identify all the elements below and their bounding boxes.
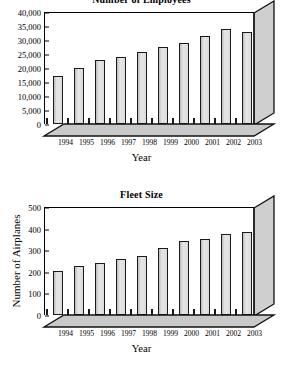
x-axis-title-employees: Year bbox=[0, 152, 283, 163]
plot-area-employees: 05,00010,00015,00020,00025,00030,00035,0… bbox=[44, 12, 254, 124]
chart-title-fleet: Fleet Size bbox=[0, 189, 283, 200]
y-axis-tick: 300 bbox=[28, 246, 45, 256]
chart-title-employees: Number of Employees bbox=[0, 0, 283, 5]
x-axis-label: 2003 bbox=[247, 138, 262, 147]
y-axis-tick: 15,000 bbox=[18, 78, 45, 88]
y-axis-title-fleet: Number of Airplanes bbox=[10, 201, 22, 321]
bar bbox=[74, 68, 85, 124]
axis-tickmark bbox=[172, 118, 173, 124]
y-axis-tick: 25,000 bbox=[18, 50, 45, 60]
x-axis-label: 2003 bbox=[247, 329, 262, 338]
y-axis-tick: 500 bbox=[28, 203, 45, 213]
bar bbox=[53, 271, 64, 315]
axis-tickmark bbox=[151, 118, 152, 124]
bar bbox=[179, 241, 190, 315]
axis-tickmark bbox=[67, 118, 68, 124]
bar bbox=[116, 259, 127, 315]
axis-tickmark bbox=[235, 118, 236, 124]
bar bbox=[74, 266, 85, 315]
x-axis-label: 1995 bbox=[79, 138, 94, 147]
axis-tickmark bbox=[109, 309, 110, 315]
bar bbox=[158, 248, 169, 315]
y-axis-tick: 10,000 bbox=[18, 92, 45, 102]
x-axis-label: 1999 bbox=[163, 138, 178, 147]
y-axis-tick: 0 bbox=[37, 311, 45, 321]
x-axis-label: 2001 bbox=[205, 329, 220, 338]
bar bbox=[221, 234, 232, 315]
x-axis-label: 2002 bbox=[226, 138, 241, 147]
chart-number-of-employees: Number of Employees 05,00010,00015,00020… bbox=[0, 0, 283, 185]
axis-tickmark bbox=[46, 309, 47, 315]
x-axis-label: 1994 bbox=[58, 329, 73, 338]
x-axis-title-fleet: Year bbox=[0, 343, 283, 354]
y-axis-tick: 35,000 bbox=[18, 22, 45, 32]
axis-tickmark bbox=[67, 309, 68, 315]
axis-tickmark bbox=[172, 309, 173, 315]
x-axis-label: 2000 bbox=[184, 329, 199, 338]
axis-tickmark bbox=[130, 118, 131, 124]
axis-tickmark bbox=[235, 309, 236, 315]
bar bbox=[242, 32, 253, 124]
bar bbox=[242, 232, 253, 315]
axis-tickmark bbox=[109, 118, 110, 124]
y-axis-tick: 400 bbox=[28, 225, 45, 235]
y-axis-tick: 100 bbox=[28, 289, 45, 299]
x-axis-label: 1995 bbox=[79, 329, 94, 338]
y-axis-tick: 40,000 bbox=[18, 8, 45, 18]
bar bbox=[221, 29, 232, 124]
x-axis-label: 1997 bbox=[121, 138, 136, 147]
x-axis-label: 1994 bbox=[58, 138, 73, 147]
y-axis-tick: 30,000 bbox=[18, 36, 45, 46]
bar bbox=[158, 47, 169, 124]
y-axis-tick: 200 bbox=[28, 268, 45, 278]
y-axis-tick: 20,000 bbox=[18, 64, 45, 74]
axis-tickmark bbox=[88, 309, 89, 315]
y-axis-tick: 5,000 bbox=[22, 106, 45, 116]
plot-area-fleet: 0100200300400500 bbox=[44, 207, 254, 315]
axis-tickmark bbox=[151, 309, 152, 315]
axis-tickmark bbox=[46, 118, 47, 124]
x-axis-label: 1996 bbox=[100, 329, 115, 338]
bar bbox=[179, 43, 190, 124]
axis-tickmark bbox=[193, 309, 194, 315]
bar-series-fleet bbox=[45, 208, 254, 315]
axis-tickmark bbox=[214, 309, 215, 315]
bar bbox=[116, 57, 127, 124]
axis-tickmark bbox=[88, 118, 89, 124]
x-axis-label: 1999 bbox=[163, 329, 178, 338]
axis-tickmark bbox=[193, 118, 194, 124]
bar bbox=[53, 76, 64, 124]
x-axis-label: 2001 bbox=[205, 138, 220, 147]
x-axis-label: 1998 bbox=[142, 329, 157, 338]
bar bbox=[95, 60, 106, 124]
bar bbox=[200, 239, 211, 315]
bar bbox=[137, 256, 148, 315]
y-axis-tick: 0 bbox=[37, 120, 45, 130]
axis-tickmark bbox=[214, 118, 215, 124]
x-axis-label: 1996 bbox=[100, 138, 115, 147]
bar bbox=[200, 36, 211, 124]
bar-series-employees bbox=[45, 13, 254, 124]
bar bbox=[137, 52, 148, 124]
x-axis-label: 2002 bbox=[226, 329, 241, 338]
x-axis-label: 1997 bbox=[121, 329, 136, 338]
x-axis-label: 1998 bbox=[142, 138, 157, 147]
x-axis-label: 2000 bbox=[184, 138, 199, 147]
bar bbox=[95, 263, 106, 315]
axis-tickmark bbox=[130, 309, 131, 315]
chart-fleet-size: Fleet Size Number of Airplanes 010020030… bbox=[0, 185, 283, 370]
